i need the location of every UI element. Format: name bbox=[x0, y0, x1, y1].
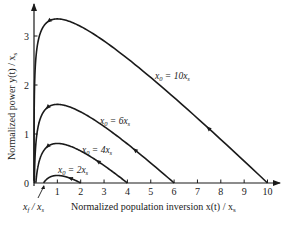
curve-label-x0-4: x0 = 4xs bbox=[81, 145, 113, 156]
xf-pointer-arrow-icon bbox=[41, 185, 45, 189]
laser-spiking-phase-plot: 12345678910 0123 Normalized power y(t) /… bbox=[0, 0, 286, 227]
curve-label-x0-6: x0 = 6xs bbox=[99, 116, 131, 127]
curve-label-x0-2: x0 = 2xs bbox=[57, 165, 89, 176]
x-tick-label: 10 bbox=[263, 186, 273, 197]
x-tick-label: 2 bbox=[78, 186, 83, 197]
x-tick-label: 3 bbox=[102, 186, 107, 197]
y-axis-label: Normalized power y(t) / xs bbox=[6, 53, 19, 160]
y-tick-label: 0 bbox=[24, 178, 29, 189]
direction-arrow-icon bbox=[46, 104, 51, 109]
x-tick-label: 6 bbox=[172, 186, 177, 197]
trajectory-10 bbox=[34, 19, 267, 183]
trajectory-2 bbox=[44, 175, 81, 183]
x-tick-label: 9 bbox=[242, 186, 247, 197]
xf-annotation: xf / xs bbox=[22, 201, 44, 213]
x-tick-label: 8 bbox=[218, 186, 223, 197]
x-tick-label: 7 bbox=[195, 186, 200, 197]
x-axis-label: Normalized population inversion x(t) / x… bbox=[71, 201, 236, 214]
x-tick-label: 5 bbox=[148, 186, 153, 197]
direction-arrow-icon bbox=[68, 177, 73, 181]
direction-arrow-icon bbox=[46, 143, 51, 148]
trajectory-curves bbox=[34, 19, 267, 183]
x-axis-ticks: 12345678910 bbox=[55, 180, 273, 198]
y-tick-label: 3 bbox=[24, 31, 29, 42]
direction-arrows bbox=[46, 18, 212, 181]
x-tick-label: 1 bbox=[55, 186, 60, 197]
x-tick-label: 4 bbox=[125, 186, 130, 197]
curve-label-x0-10: x0 = 10xs bbox=[154, 71, 190, 82]
y-tick-label: 2 bbox=[24, 80, 29, 91]
y-tick-label: 1 bbox=[24, 129, 29, 140]
